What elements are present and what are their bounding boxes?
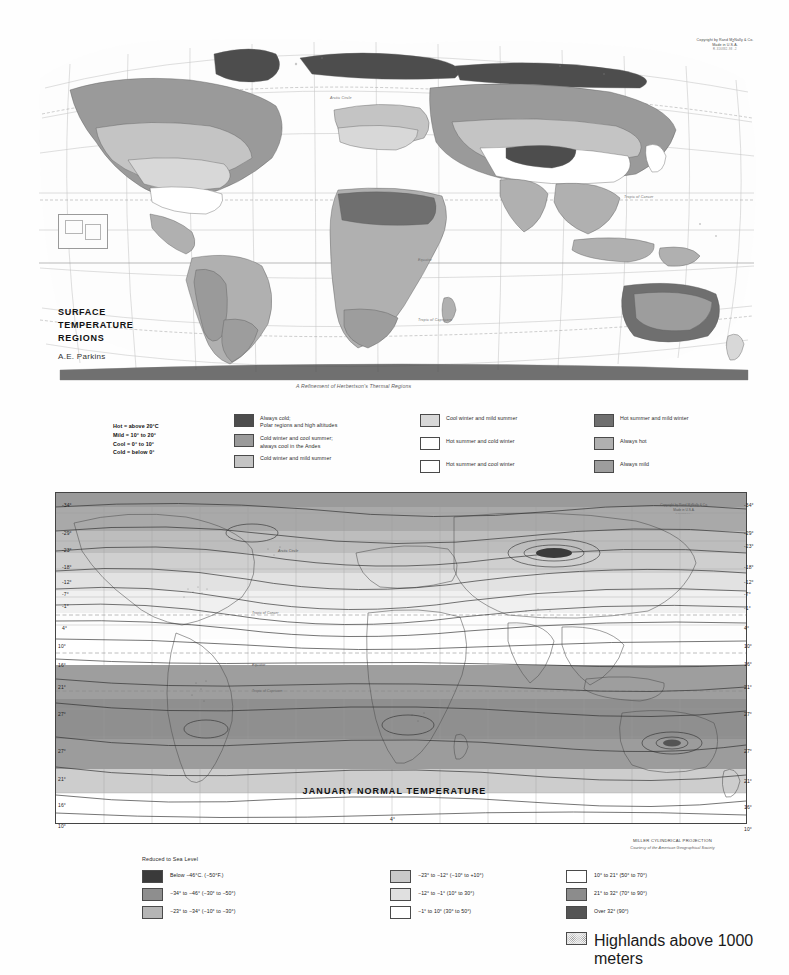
legend-item[interactable]: Cool winter and mild summer (420, 414, 600, 427)
iso-label: 27° (744, 748, 752, 754)
legend-column-3: Hot summer and mild winter Always hot Al… (594, 414, 784, 477)
legend-swatch-10-to-21 (566, 870, 587, 883)
legend-column-2: Cool winter and mild summer Hot summer a… (420, 414, 600, 477)
legend-swatch-minus12-to-minus1 (390, 888, 411, 901)
legend-swatch-minus23-to-minus34 (142, 906, 163, 919)
definition-hot: Hot = above 20°C (113, 422, 159, 431)
legend-item[interactable]: Cold winter and mild summer (234, 455, 424, 468)
legend-swatch-21-to-32 (566, 888, 587, 901)
legend-label: Cool winter and mild summer (446, 414, 517, 422)
equator-label: Equator (252, 663, 265, 667)
bottom-map-copyright: Copyright by Rand MᶚNally & Co. Made in … (634, 503, 734, 516)
map-author: A.E. Parkins (58, 352, 106, 361)
january-normal-temperature-panel: Copyright by Rand MᶚNally & Co. Made in … (0, 486, 789, 846)
tropic-of-cancer-label: Tropic of Cancer (252, 611, 278, 615)
legend-swatch-hot-summer-cold-winter (420, 437, 440, 450)
legend-label: Always mild (620, 460, 649, 468)
title-line-2: TEMPERATURE (58, 319, 134, 332)
iso-label: -29° (744, 530, 754, 536)
legend-item[interactable]: Hot summer and cold winter (420, 437, 600, 450)
legend-label: −1° to 10° (30° to 50°) (418, 906, 471, 915)
legend-item[interactable]: −23° to −34° (−10° to −30°) (142, 906, 372, 919)
legend-item[interactable]: Over 32° (90°) (566, 906, 776, 919)
legend-label: −23° to −12° (−10° to +10°) (418, 870, 484, 879)
legend-swatch-always-hot (594, 437, 614, 450)
iso-label: 21° (744, 684, 752, 690)
iso-label: -29° (62, 530, 72, 536)
legend-item[interactable]: Cold winter and cool summer; always cool… (234, 434, 424, 450)
legend-heading-reduced-to-sea-level: Reduced to Sea Level (142, 856, 198, 862)
legend-item[interactable]: Below −46°C. (−50°F.) (142, 870, 372, 883)
iso-label: -34° (744, 502, 754, 508)
legend-swatch-highlands (566, 932, 587, 945)
legend-swatch-minus34-to-minus46 (142, 888, 163, 901)
iso-label: -7° (744, 591, 751, 597)
legend-swatch-always-mild (594, 460, 614, 473)
legend-item[interactable]: Hot summer and mild winter (594, 414, 784, 427)
legend-item-highlands[interactable]: Highlands above 1000 meters (566, 932, 789, 968)
tropic-of-capricorn-label: Tropic of Capricorn (418, 318, 452, 322)
legend-item[interactable]: Always mild (594, 460, 784, 473)
isotherm-map-svg (56, 493, 746, 823)
legend-item[interactable]: −1° to 10° (30° to 50°) (390, 906, 590, 919)
map-subtitle: A Refinement of Herbertson's Thermal Reg… (296, 383, 411, 389)
legend-item[interactable]: −12° to −1° (10° to 30°) (390, 888, 590, 901)
projection-credit: MILLER CYLINDRICAL PROJECTION Courtesy o… (556, 838, 789, 851)
legend-swatch-hot-summer-mild-winter (594, 414, 614, 427)
legend-swatch-below-46 (142, 870, 163, 883)
iso-label: -7° (62, 591, 69, 597)
legend-label: −34° to −46° (−30° to −50°) (170, 888, 236, 897)
iso-label: -18° (62, 564, 72, 570)
bottom-edge-isotherm-label: 4° (390, 816, 395, 822)
iso-label: 21° (58, 684, 66, 690)
iso-label: 10° (58, 643, 66, 649)
arctic-circle-label: Arctic Circle (278, 549, 298, 553)
page-title: SURFACE TEMPERATURE REGIONS (58, 306, 134, 345)
map-inset-box (58, 214, 108, 249)
equator-label: Equator (418, 258, 432, 262)
legend-item[interactable]: Hot summer and cool winter (420, 460, 600, 473)
iso-label: 4° (62, 625, 67, 631)
iso-label: -23° (744, 543, 754, 549)
legend-label: Hot summer and cool winter (446, 460, 515, 468)
bottom-legend-column-2: −23° to −12° (−10° to +10°) −12° to −1° … (390, 870, 590, 924)
legend-swatch-cold-winter-cool-summer (234, 434, 254, 447)
iso-label: 27° (58, 748, 66, 754)
temperature-definitions: Hot = above 20°C Mild = 10° to 20° Cool … (113, 422, 159, 457)
iso-label: 27° (58, 711, 66, 717)
iso-label: 21° (744, 778, 752, 784)
iso-label: 10° (744, 643, 752, 649)
legend-swatch-minus1-to-10 (390, 906, 411, 919)
legend-label: −12° to −1° (10° to 30°) (418, 888, 474, 897)
legend-label: Always cold; Polar regions and high alti… (260, 414, 337, 430)
legend-label: −23° to −34° (−10° to −30°) (170, 906, 236, 915)
legend-label: Below −46°C. (−50°F.) (170, 870, 224, 879)
inset-frame-b (85, 224, 101, 240)
iso-label: 16° (58, 802, 66, 808)
legend-item[interactable]: Always hot (594, 437, 784, 450)
legend-swatch-hot-summer-cool-winter (420, 460, 440, 473)
iso-label: 10° (744, 826, 752, 832)
tropic-of-cancer-label: Tropic of Cancer (624, 195, 654, 199)
surface-temperature-map-panel: Copyright by Rand MᶚNally & Co. Made in … (0, 18, 789, 388)
legend-label: Over 32° (90°) (594, 906, 629, 915)
legend-label: 21° to 32° (70° to 90°) (594, 888, 647, 897)
legend-item[interactable]: 21° to 32° (70° to 90°) (566, 888, 776, 901)
january-temperature-legend: Reduced to Sea Level Below −46°C. (−50°F… (0, 856, 789, 961)
iso-label: -1° (62, 603, 69, 609)
atlas-page: Copyright by Rand MᶚNally & Co. Made in … (0, 0, 789, 975)
legend-item[interactable]: 10° to 21° (50° to 70°) (566, 870, 776, 883)
january-temperature-map: Copyright by Rand MᶚNally & Co. Made in … (55, 492, 747, 824)
legend-item[interactable]: −23° to −12° (−10° to +10°) (390, 870, 590, 883)
iso-label: 4° (744, 625, 749, 631)
legend-swatch-over-32 (566, 906, 587, 919)
courtesy-note: Courtesy of the American Geographical So… (556, 845, 789, 851)
legend-item[interactable]: Always cold; Polar regions and high alti… (234, 414, 424, 430)
legend-swatch-minus23-to-minus12 (390, 870, 411, 883)
legend-item[interactable]: −34° to −46° (−30° to −50°) (142, 888, 372, 901)
bottom-map-title: JANUARY NORMAL TEMPERATURE (0, 786, 789, 796)
surface-temperature-legend: Hot = above 20°C Mild = 10° to 20° Cool … (0, 414, 789, 482)
bottom-legend-column-3: 10° to 21° (50° to 70°) 21° to 32° (70° … (566, 870, 776, 924)
iso-label: 10° (58, 823, 66, 829)
inset-frame-a (65, 220, 83, 234)
